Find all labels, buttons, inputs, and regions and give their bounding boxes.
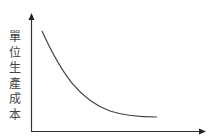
cost-curve-diagram — [0, 0, 220, 136]
cost-curve — [42, 31, 157, 117]
x-axis-arrow-icon — [199, 129, 206, 135]
y-axis-arrow-icon — [29, 13, 35, 20]
